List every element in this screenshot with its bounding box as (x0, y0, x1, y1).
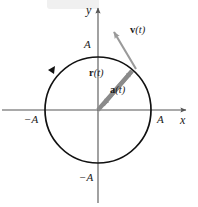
tick-label-y-negative: −A (79, 172, 93, 183)
acceleration-vector-arg: (t) (115, 84, 125, 95)
circular-motion-diagram: y x A −A −A A r(t) a(t) v(t) (0, 0, 198, 207)
tick-label-y-positive: A (84, 39, 91, 50)
direction-arrowhead-icon (48, 66, 55, 74)
velocity-vector-arg: (t) (135, 24, 145, 35)
x-axis-label: x (180, 114, 185, 126)
diagram-canvas (0, 0, 198, 207)
acceleration-vector-label: a(t) (110, 85, 125, 96)
velocity-vector-label: v(t) (130, 25, 145, 36)
position-vector-arg: (t) (94, 67, 104, 78)
tick-label-x-positive: A (157, 114, 164, 125)
tick-label-x-negative: −A (24, 114, 38, 125)
y-axis-label: y (86, 4, 91, 16)
position-vector-label: r(t) (89, 68, 104, 79)
